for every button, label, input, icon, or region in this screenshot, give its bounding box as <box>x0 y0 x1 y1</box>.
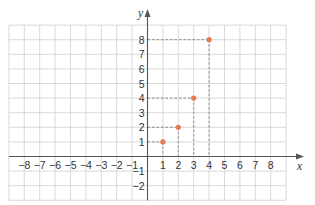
x-tick-label: 2 <box>175 159 181 171</box>
coordinate-plane: −8−7−6−5−4−3−2−112345678−2−112345678 x y <box>0 0 315 205</box>
y-tick-label: 6 <box>139 63 145 75</box>
y-tick-label: −1 <box>133 165 145 177</box>
y-tick-label: 4 <box>139 92 145 104</box>
y-axis-arrow-icon <box>145 9 151 17</box>
x-tick-label: 8 <box>268 159 274 171</box>
y-tick-label: −2 <box>133 180 145 192</box>
x-tick-label: −8 <box>18 159 30 171</box>
data-point <box>176 125 181 130</box>
x-tick-label: 7 <box>252 159 258 171</box>
x-tick-label: −3 <box>95 159 107 171</box>
x-tick-label: 3 <box>191 159 197 171</box>
x-tick-label: 5 <box>222 159 228 171</box>
x-tick-label: −2 <box>111 159 123 171</box>
x-tick-label: −4 <box>80 159 92 171</box>
x-tick-label: −5 <box>65 159 77 171</box>
y-tick-label: 7 <box>139 48 145 60</box>
y-tick-label: 5 <box>139 78 145 90</box>
x-tick-label: 1 <box>160 159 166 171</box>
y-tick-label: 1 <box>139 136 145 148</box>
data-point <box>191 96 196 101</box>
y-tick-label: 2 <box>139 121 145 133</box>
x-axis-label: x <box>296 160 303 172</box>
axes <box>9 9 304 200</box>
data-point <box>160 139 165 144</box>
x-tick-label: −7 <box>34 159 46 171</box>
x-tick-label: 6 <box>237 159 243 171</box>
x-tick-label: 4 <box>206 159 212 171</box>
x-tick-label: −6 <box>49 159 61 171</box>
y-axis-label: y <box>137 7 144 20</box>
data-points <box>160 37 211 144</box>
y-tick-label: 8 <box>139 34 145 46</box>
y-tick-label: 3 <box>139 107 145 119</box>
data-point <box>207 37 212 42</box>
